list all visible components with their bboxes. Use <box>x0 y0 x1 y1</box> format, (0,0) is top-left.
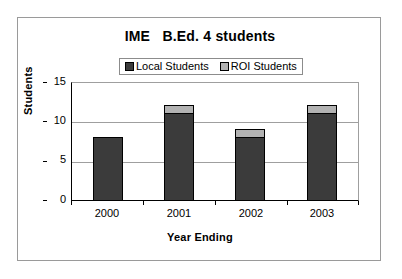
legend-label-local-students: Local Students <box>136 61 209 72</box>
bar-segment-local-2000[interactable] <box>93 137 123 200</box>
bar-group-2003[interactable] <box>307 105 337 200</box>
x-tick-label-2001: 2001 <box>154 208 204 219</box>
legend-entry-roi-students: ROI Students <box>220 61 297 72</box>
bar-group-2001[interactable] <box>164 105 194 200</box>
legend-swatch-roi-students <box>220 62 229 71</box>
bar-segment-local-2002[interactable] <box>235 137 265 200</box>
x-tick-mark-0 <box>71 201 72 205</box>
y-tick-label-0: 0 <box>60 194 66 205</box>
y-tick-mark-15 <box>43 82 47 83</box>
x-tick-mark-3 <box>287 201 288 205</box>
y-axis-ticks: 15 10 5 0 <box>44 82 66 202</box>
bar-segment-roi-2001[interactable] <box>164 105 194 113</box>
x-axis-title: Year Ending <box>18 231 382 243</box>
legend-swatch-local-students <box>125 62 134 71</box>
y-tick-mark-10 <box>43 121 47 122</box>
x-tick-mark-1 <box>143 201 144 205</box>
bar-segment-roi-2003[interactable] <box>307 105 337 113</box>
x-tick-label-2002: 2002 <box>226 208 276 219</box>
bar-group-2002[interactable] <box>235 129 265 200</box>
y-tick-label-5: 5 <box>60 154 66 165</box>
bar-segment-local-2001[interactable] <box>164 113 194 200</box>
x-tick-mark-2 <box>215 201 216 205</box>
bar-group-2000[interactable] <box>93 137 123 200</box>
plot-area <box>71 82 359 201</box>
chart-frame: IME B.Ed. 4 students Local Students ROI … <box>17 17 381 261</box>
y-tick-mark-5 <box>43 161 47 162</box>
x-tick-label-2003: 2003 <box>297 208 347 219</box>
x-tick-label-2000: 2000 <box>82 208 132 219</box>
y-tick-label-15: 15 <box>54 76 66 87</box>
x-tick-mark-4 <box>358 201 359 205</box>
bar-segment-local-2003[interactable] <box>307 113 337 200</box>
y-axis-title: Students <box>22 66 34 115</box>
y-tick-mark-0 <box>43 200 47 201</box>
bar-segment-roi-2002[interactable] <box>235 129 265 137</box>
legend-entry-local-students: Local Students <box>125 61 209 72</box>
legend-label-roi-students: ROI Students <box>231 61 297 72</box>
chart-legend: Local Students ROI Students <box>119 58 303 75</box>
y-tick-label-10: 10 <box>54 115 66 126</box>
chart-title: IME B.Ed. 4 students <box>18 28 382 44</box>
